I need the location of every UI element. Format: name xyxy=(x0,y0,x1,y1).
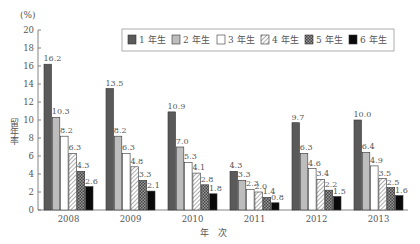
x-tick-label: 2010 xyxy=(182,214,204,224)
y-tick-label: 10 xyxy=(23,115,34,125)
legend-swatch xyxy=(172,35,180,44)
bar xyxy=(201,185,209,210)
bar-value-label: 2.6 xyxy=(85,177,98,186)
bar xyxy=(371,166,379,210)
bar xyxy=(354,120,362,210)
bar xyxy=(396,196,404,210)
y-tick-label: 18 xyxy=(23,43,34,53)
bar-value-label: 6.3 xyxy=(122,143,135,152)
bar xyxy=(309,169,317,210)
bar-value-label: 7.0 xyxy=(176,137,189,146)
bar xyxy=(86,187,94,210)
bar xyxy=(292,123,300,210)
bar-value-label: 4.9 xyxy=(370,156,383,165)
y-tick-label: 4 xyxy=(29,169,34,179)
bar-value-label: 1.5 xyxy=(333,187,346,196)
legend-item: 2 年生 xyxy=(172,34,210,45)
y-tick-label: 0 xyxy=(29,205,34,215)
bar xyxy=(131,167,139,210)
bar xyxy=(317,179,325,210)
legend-label: 2 年生 xyxy=(183,34,210,45)
x-tick-label: 2013 xyxy=(368,214,390,224)
y-tick-label: 16 xyxy=(23,61,34,71)
legend-swatch xyxy=(261,35,269,44)
bar xyxy=(139,180,147,210)
bar-value-label: 3.4 xyxy=(316,169,329,178)
bar-groups: 16.210.38.26.34.32.613.58.26.34.83.32.11… xyxy=(44,54,408,210)
bar xyxy=(230,171,238,210)
bar xyxy=(176,147,184,210)
bar-chart: (%) 留年率 02468101214161820 16.210.38.26.3… xyxy=(0,0,420,244)
legend: 1 年生2 年生3 年生4 年生5 年生6 年生 xyxy=(122,29,394,51)
bar xyxy=(255,192,263,210)
bar-value-label: 2.8 xyxy=(201,175,214,184)
bar xyxy=(387,188,395,211)
bar-group-2009: 13.58.26.34.83.32.1 xyxy=(106,79,160,211)
x-tick-label: 2011 xyxy=(244,214,266,224)
bar-value-label: 6.3 xyxy=(300,143,313,152)
legend-item: 6 年生 xyxy=(349,34,387,45)
bar xyxy=(114,136,122,210)
legend-label: 3 年生 xyxy=(228,34,255,45)
bar-value-label: 10.0 xyxy=(354,110,372,119)
bar-value-label: 3.3 xyxy=(139,170,152,179)
bar-value-label: 9.7 xyxy=(292,113,305,122)
bar xyxy=(210,194,218,210)
bar xyxy=(185,162,193,210)
bar-value-label: 6.4 xyxy=(362,142,375,151)
bar-value-label: 13.5 xyxy=(106,79,124,88)
legend-item: 4 年生 xyxy=(261,34,299,45)
x-axis-label: 年 次 xyxy=(200,227,227,238)
legend-swatch xyxy=(128,35,136,44)
bar-value-label: 10.9 xyxy=(168,102,186,111)
bar xyxy=(247,189,255,210)
y-tick-label: 12 xyxy=(23,97,34,107)
y-tick-label: 6 xyxy=(29,151,34,161)
bar-value-label: 8.2 xyxy=(114,126,127,135)
unit-label: (%) xyxy=(20,10,36,20)
bar-group-2012: 9.76.34.63.42.21.5 xyxy=(292,113,346,210)
bar xyxy=(77,171,85,210)
bar-value-label: 8.2 xyxy=(60,126,73,135)
bar xyxy=(334,197,342,211)
bar xyxy=(168,112,176,210)
bar xyxy=(69,153,77,210)
bar-value-label: 1.6 xyxy=(395,186,408,195)
bar xyxy=(123,153,131,210)
bar xyxy=(300,153,308,210)
bar-value-label: 2.1 xyxy=(147,181,160,190)
legend-label: 4 年生 xyxy=(272,34,299,45)
legend-swatch xyxy=(305,35,313,44)
y-tick-label: 20 xyxy=(23,25,34,35)
y-tick-label: 2 xyxy=(29,187,34,197)
x-tick-label: 2008 xyxy=(58,214,80,224)
bar-value-label: 4.1 xyxy=(192,163,205,172)
bar-value-label: 4.3 xyxy=(230,161,243,170)
bar-value-label: 3.5 xyxy=(378,169,391,178)
bar xyxy=(263,197,271,210)
y-tick-label: 8 xyxy=(29,133,34,143)
bar-value-label: 1.8 xyxy=(209,184,222,193)
bar-value-label: 10.3 xyxy=(52,107,70,116)
y-tick-label: 14 xyxy=(23,79,34,89)
bar xyxy=(148,191,156,210)
bar xyxy=(379,179,387,211)
bar-group-2010: 10.97.05.34.12.81.8 xyxy=(168,102,222,210)
bar-value-label: 5.3 xyxy=(184,152,197,161)
legend-label: 5 年生 xyxy=(316,34,343,45)
bar-value-label: 3.3 xyxy=(238,170,251,179)
bar-value-label: 4.3 xyxy=(77,161,90,170)
bar xyxy=(106,89,114,211)
y-axis-label: 留年率 xyxy=(9,117,19,146)
bar xyxy=(193,173,201,210)
legend-item: 3 年生 xyxy=(217,34,255,45)
bar xyxy=(325,190,333,210)
bar-group-2013: 10.06.44.93.52.51.6 xyxy=(354,110,408,210)
bar xyxy=(61,136,69,210)
legend-swatch xyxy=(349,35,357,44)
bar-value-label: 4.6 xyxy=(308,159,321,168)
bar xyxy=(52,117,60,210)
bar-group-2008: 16.210.38.26.34.32.6 xyxy=(44,54,98,210)
bar xyxy=(362,152,370,210)
bar xyxy=(44,64,52,210)
